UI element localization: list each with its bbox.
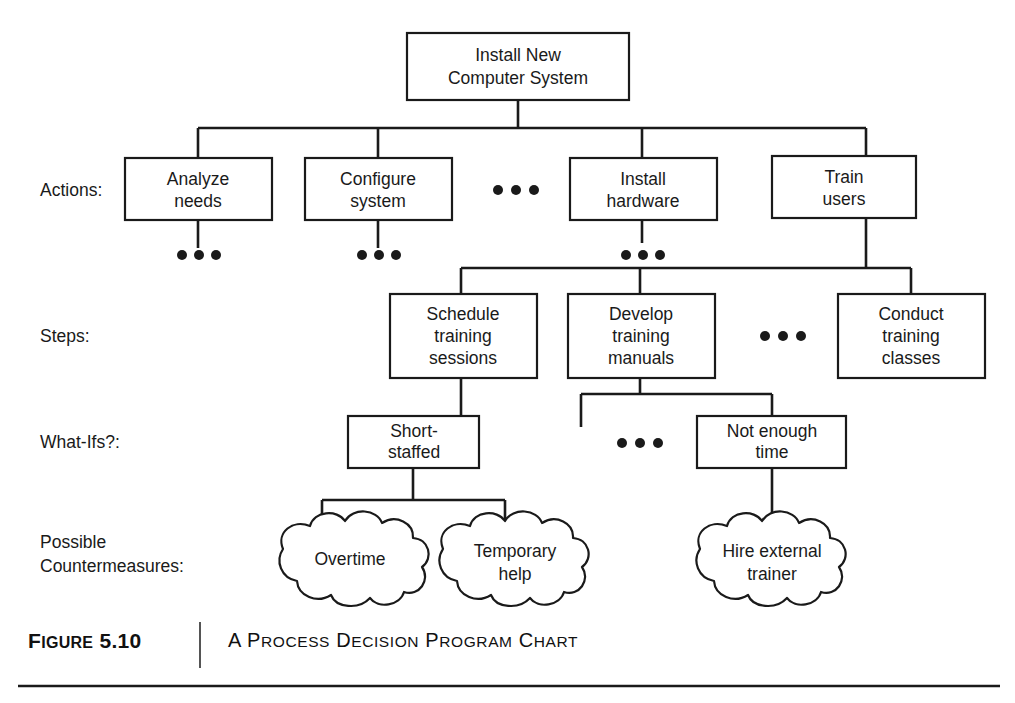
connector-group-train-to-steps	[461, 218, 911, 294]
node-temporary-help[interactable]: Temporary help	[439, 511, 588, 606]
node-a4-box	[772, 156, 916, 218]
node-a1-line1: Analyze	[167, 169, 229, 189]
node-a2-line1: Configure	[340, 169, 416, 189]
node-s2-line3: manuals	[608, 348, 674, 368]
ellipsis-steps-middle	[760, 331, 806, 341]
node-c3-line1: Hire external	[722, 541, 821, 561]
node-schedule-training-sessions[interactable]: Schedule training sessions	[390, 294, 537, 378]
figure-caption: FIGURE 5.10 A PROCESS DECISION PROGRAM C…	[18, 622, 1000, 686]
row-label-countermeasures-line2: Countermeasures:	[40, 556, 184, 576]
node-c1-line1: Overtime	[315, 549, 386, 569]
row-label-steps: Steps:	[40, 326, 90, 346]
node-goal-line2: Computer System	[448, 68, 588, 88]
node-w2-line1: Not enough	[727, 421, 818, 441]
node-s3-line1: Conduct	[878, 304, 943, 324]
node-configure-system[interactable]: Configure system	[305, 158, 452, 220]
node-s3-line2: training	[882, 326, 939, 346]
node-a3-line1: Install	[620, 169, 666, 189]
row-label-whatifs: What-Ifs?:	[40, 432, 120, 452]
node-w2-line2: time	[755, 442, 788, 462]
node-analyze-needs[interactable]: Analyze needs	[125, 158, 272, 220]
node-s1-line2: training	[434, 326, 491, 346]
node-a4-line1: Train	[824, 167, 863, 187]
row-label-countermeasures-line1: Possible	[40, 532, 106, 552]
node-a1-line2: needs	[174, 191, 222, 211]
node-s2-line1: Develop	[609, 304, 673, 324]
node-c2-line2: help	[498, 564, 531, 584]
ellipsis-whatifs-middle	[617, 438, 663, 448]
node-s3-line3: classes	[882, 348, 941, 368]
node-install-hardware[interactable]: Install hardware	[570, 158, 717, 220]
node-a2-box	[305, 158, 452, 220]
node-conduct-training-classes[interactable]: Conduct training classes	[838, 294, 985, 378]
node-w1-line2: staffed	[388, 442, 440, 462]
row-label-actions: Actions:	[40, 180, 102, 200]
ellipsis-below-install-hardware	[621, 250, 665, 260]
ellipsis-below-configure-system	[357, 250, 401, 260]
node-not-enough-time[interactable]: Not enough time	[697, 416, 846, 468]
node-a3-box	[570, 158, 717, 220]
node-short-staffed[interactable]: Short- staffed	[348, 416, 479, 468]
node-s2-line2: training	[612, 326, 669, 346]
node-overtime[interactable]: Overtime	[279, 511, 428, 606]
node-a4-line2: users	[823, 189, 866, 209]
node-train-users[interactable]: Train users	[772, 156, 916, 218]
node-develop-training-manuals[interactable]: Develop training manuals	[568, 294, 715, 378]
node-a1-box	[125, 158, 272, 220]
pdpc-diagram: Install New Computer System Analyze need…	[0, 0, 1015, 703]
figure-title: A PROCESS DECISION PROGRAM CHART	[228, 629, 578, 651]
node-c3-line2: trainer	[747, 564, 797, 584]
figure-label-number: 5.10	[93, 629, 141, 652]
ellipsis-actions-middle	[493, 185, 539, 195]
node-goal[interactable]: Install New Computer System	[407, 33, 629, 100]
node-goal-line1: Install New	[475, 45, 561, 65]
node-a3-line2: hardware	[607, 191, 680, 211]
node-c2-line1: Temporary	[474, 541, 557, 561]
ellipsis-below-analyze-needs	[177, 250, 221, 260]
node-hire-external-trainer[interactable]: Hire external trainer	[696, 511, 845, 606]
figure-label-smallcaps: IGURE	[41, 634, 93, 651]
connector-group-actions-stubs	[198, 220, 642, 248]
node-s1-line1: Schedule	[427, 304, 500, 324]
connector-group-goal-to-actions	[198, 100, 866, 158]
node-w1-line1: Short-	[390, 421, 438, 441]
figure-container: Install New Computer System Analyze need…	[0, 0, 1015, 703]
figure-label-cap: F	[28, 629, 41, 652]
figure-label: FIGURE 5.10	[28, 629, 142, 652]
node-a2-line2: system	[350, 191, 405, 211]
node-s1-line3: sessions	[429, 348, 497, 368]
node-goal-box	[407, 33, 629, 100]
